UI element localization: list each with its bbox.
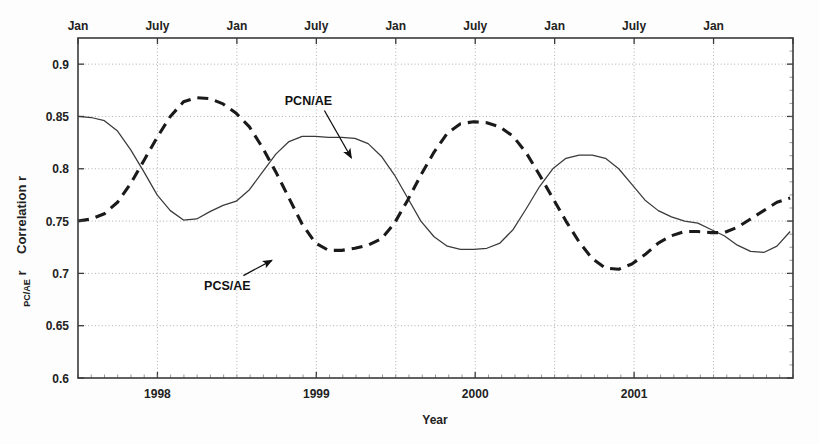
x-top-tick-label: Jan <box>227 19 248 33</box>
correlation-line-chart: 0.60.650.70.750.80.850.91998199920002001… <box>0 0 819 444</box>
plot-background <box>78 38 793 378</box>
x-tick-label: 2001 <box>621 387 648 401</box>
x-top-tick-label: Jan <box>68 19 89 33</box>
y-tick-label: 0.6 <box>52 372 69 386</box>
y-axis-title-subscript: PC/AE <box>22 279 32 307</box>
y-tick-label: 0.9 <box>52 58 69 72</box>
x-top-tick-label: July <box>463 19 487 33</box>
y-axis-title-symbol: r <box>14 270 29 275</box>
x-tick-label: 1999 <box>303 387 330 401</box>
x-tick-label: 2000 <box>462 387 489 401</box>
y-axis-title-main: Correlation r <box>14 176 29 254</box>
x-axis-title: Year <box>422 413 448 427</box>
y-tick-label: 0.75 <box>46 215 70 229</box>
x-top-tick-label: July <box>304 19 328 33</box>
x-tick-label: 1998 <box>144 387 171 401</box>
x-top-tick-label: July <box>145 19 169 33</box>
x-top-tick-label: Jan <box>385 19 406 33</box>
y-tick-label: 0.65 <box>46 319 70 333</box>
x-top-tick-label: July <box>622 19 646 33</box>
annotation-label-pcn-ae: PCN/AE <box>285 94 332 108</box>
y-axis-title: Correlation r r PC/AE <box>14 176 32 307</box>
y-tick-label: 0.85 <box>46 110 70 124</box>
x-top-tick-label: Jan <box>544 19 565 33</box>
annotation-label-pcs-ae: PCS/AE <box>204 279 251 293</box>
x-top-tick-label: Jan <box>703 19 724 33</box>
figure-container: 0.60.650.70.750.80.850.91998199920002001… <box>0 0 819 444</box>
y-tick-label: 0.7 <box>52 267 69 281</box>
y-tick-label: 0.8 <box>52 162 69 176</box>
